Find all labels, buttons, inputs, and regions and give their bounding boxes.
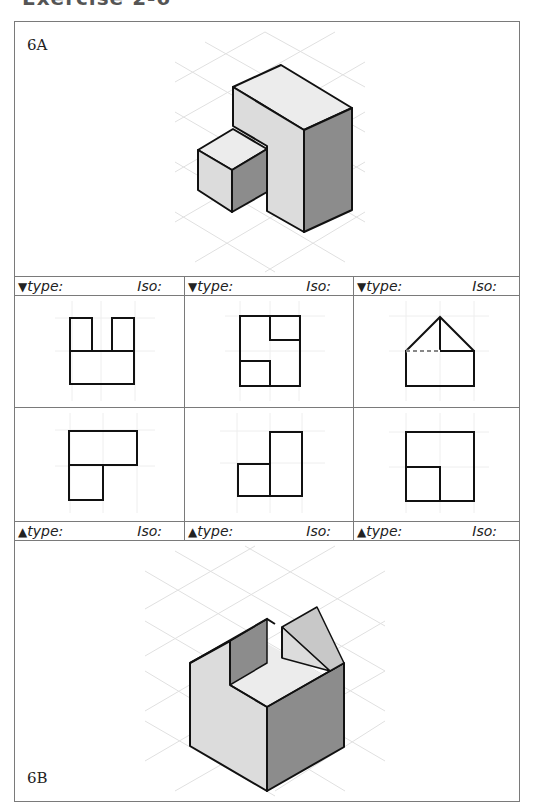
iso-label: Iso: [472,278,497,294]
orthographic-view [354,296,519,408]
view-u-shape [15,296,185,407]
page-heading: Exercise 2-6 [22,0,171,10]
iso-label: Iso: [306,278,331,294]
orthographic-view [185,296,354,408]
down-triangle-icon: ▼ [357,280,366,294]
type-label: type: [197,278,233,294]
panel-label-6b: 6B [27,769,48,787]
label-row-bottom: ▲type: Iso: ▲type: Iso: ▲type: Iso: [15,521,519,541]
label-cell: ▼type: Iso: [354,277,519,295]
panel-6a: 6A [15,22,519,277]
view-s-square [185,296,354,407]
orthographic-view [15,296,185,408]
label-cell: ▲type: Iso: [354,522,519,540]
up-triangle-icon: ▲ [18,525,27,539]
orthographic-view [185,408,354,521]
orthographic-view [354,408,519,521]
orthographic-view [15,408,185,521]
label-cell: ▲type: Iso: [15,522,185,540]
view-l-shape-down [15,408,185,521]
down-triangle-icon: ▼ [188,280,197,294]
down-triangle-icon: ▼ [18,280,27,294]
exercise-frame: 6A ▼type: Iso: ▼type: [14,21,520,802]
type-label: type: [366,523,402,539]
view-house-pentagon [354,296,519,407]
views-row-2 [15,408,519,521]
isometric-figure-6b [15,541,521,803]
type-label: type: [366,278,402,294]
panel-6b: 6B [15,541,519,803]
up-triangle-icon: ▲ [188,525,197,539]
views-row-1 [15,296,519,408]
iso-label: Iso: [137,278,162,294]
iso-label: Iso: [306,523,331,539]
iso-label: Iso: [472,523,497,539]
type-label: type: [197,523,233,539]
type-label: type: [27,523,63,539]
view-step-right [185,408,354,521]
view-square-inner-corner [354,408,519,521]
label-cell: ▼type: Iso: [185,277,354,295]
iso-label: Iso: [137,523,162,539]
label-row-top: ▼type: Iso: ▼type: Iso: ▼type: Iso: [15,276,519,296]
type-label: type: [27,278,63,294]
isometric-figure-6a [15,22,521,277]
label-cell: ▼type: Iso: [15,277,185,295]
label-cell: ▲type: Iso: [185,522,354,540]
up-triangle-icon: ▲ [357,525,366,539]
